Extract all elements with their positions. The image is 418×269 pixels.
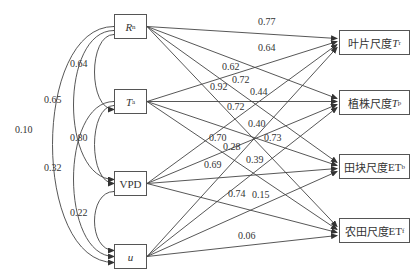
path-coefficient-label: 0.92 bbox=[210, 81, 228, 92]
node-label-main: R bbox=[125, 21, 132, 33]
correlation-arc bbox=[95, 192, 115, 251]
path-line bbox=[147, 102, 337, 230]
node-VPD: VPD bbox=[114, 171, 147, 196]
node-ETb: 田块尺度ETb bbox=[339, 154, 410, 179]
node-label-sub: a bbox=[132, 98, 135, 106]
path-line bbox=[147, 27, 337, 163]
path-coefficient-label: 0.69 bbox=[204, 159, 222, 170]
node-label-prefix: 植株尺度 bbox=[348, 95, 392, 111]
node-Tr: 叶片尺度Tr bbox=[339, 30, 410, 55]
path-coefficient-label: 0.72 bbox=[232, 74, 250, 85]
node-label-main: ET bbox=[389, 225, 402, 237]
node-label-main: u bbox=[128, 251, 134, 263]
node-u: u bbox=[114, 244, 147, 269]
correlation-label: 0.32 bbox=[44, 162, 62, 173]
path-line bbox=[147, 42, 337, 102]
correlation-label: 0.10 bbox=[15, 124, 33, 135]
correlation-arc bbox=[95, 35, 115, 110]
path-coefficient-label: 0.74 bbox=[228, 188, 246, 199]
path-coefficient-label: 0.40 bbox=[248, 118, 266, 129]
node-label-sub: f bbox=[402, 227, 404, 235]
path-line bbox=[147, 172, 337, 257]
node-label-sub: p bbox=[398, 99, 402, 107]
node-Rn: Rn bbox=[114, 14, 147, 39]
path-coefficient-label: 0.06 bbox=[238, 230, 256, 241]
path-line bbox=[147, 45, 337, 184]
correlation-label: 0.22 bbox=[70, 207, 88, 218]
correlation-label: 0.80 bbox=[70, 132, 88, 143]
correlation-label: 0.65 bbox=[44, 94, 62, 105]
path-coefficient-label: 0.15 bbox=[252, 189, 270, 200]
node-ETf: 农田尺度ETf bbox=[339, 218, 410, 243]
node-label-sub: b bbox=[401, 163, 405, 171]
correlation-arc bbox=[74, 31, 115, 180]
node-label-sub: n bbox=[132, 23, 136, 31]
path-coefficient-label: 0.64 bbox=[258, 42, 276, 53]
path-coefficient-label: 0.77 bbox=[258, 16, 276, 27]
path-line bbox=[147, 105, 337, 184]
correlation-arc bbox=[95, 106, 115, 184]
node-Ta: Ta bbox=[114, 89, 147, 114]
node-label-main: VPD bbox=[119, 178, 141, 190]
path-coefficient-label: 0.39 bbox=[246, 154, 264, 165]
node-label-prefix: 农田尺度 bbox=[345, 223, 389, 239]
path-line bbox=[147, 27, 337, 99]
path-line bbox=[147, 169, 337, 184]
node-label-sub: r bbox=[398, 39, 400, 47]
correlation-label: 0.64 bbox=[70, 58, 88, 69]
node-label-prefix: 田块尺度 bbox=[344, 159, 388, 175]
node-Tp: 植株尺度Tp bbox=[339, 90, 410, 115]
path-coefficient-label: 0.73 bbox=[264, 132, 282, 143]
node-label-prefix: 叶片尺度 bbox=[348, 35, 392, 51]
path-coefficient-label: 0.28 bbox=[223, 141, 241, 152]
node-label-main: ET bbox=[388, 161, 401, 173]
path-line bbox=[147, 27, 337, 39]
path-coefficient-label: 0.72 bbox=[227, 101, 245, 112]
path-coefficient-label: 0.62 bbox=[222, 61, 240, 72]
path-coefficient-label: 0.44 bbox=[250, 86, 268, 97]
